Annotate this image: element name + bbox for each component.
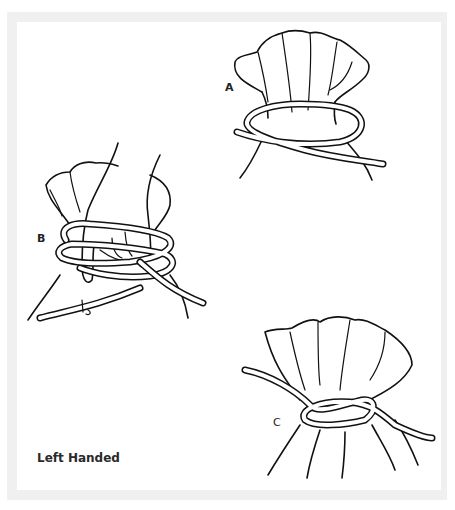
step-b-drawing bbox=[28, 143, 203, 320]
figure-caption: Left Handed bbox=[37, 451, 120, 465]
step-a-label: A bbox=[225, 81, 234, 94]
step-a-sack-top bbox=[235, 31, 369, 102]
step-a-drawing bbox=[235, 31, 383, 180]
knot-illustration bbox=[0, 0, 455, 510]
step-c-label: C bbox=[273, 416, 281, 429]
step-c-drawing bbox=[245, 317, 432, 478]
step-b-label: B bbox=[37, 232, 45, 245]
